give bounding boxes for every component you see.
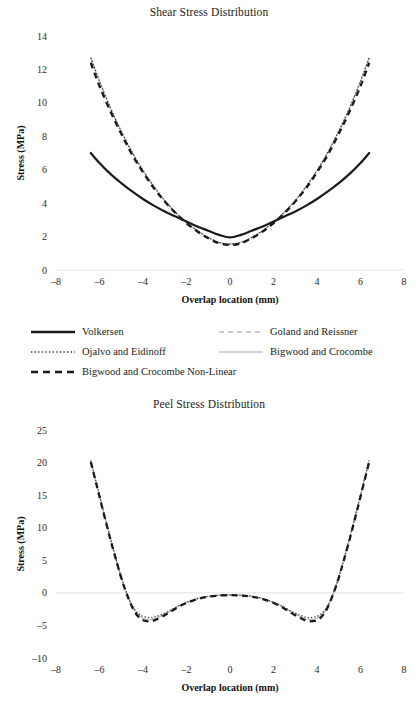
legend-swatch-thick-dashed xyxy=(30,367,76,377)
legend-item-goland-reissner: Goland and Reissner xyxy=(218,326,357,337)
x-tick-label: –8 xyxy=(50,276,61,287)
x-tick-label: –6 xyxy=(94,664,105,675)
shear-chart-title: Shear Stress Distribution xyxy=(0,0,418,22)
x-tick-label: 4 xyxy=(315,664,320,675)
legend-label-goland-reissner: Goland and Reissner xyxy=(270,326,357,337)
x-axis-title: Overlap location (mm) xyxy=(181,294,278,306)
legend-item-volkersen: Volkersen xyxy=(30,326,124,337)
y-tick-label: 0 xyxy=(42,265,47,276)
legend-label-bigwood-crocombe-nonlinear: Bigwood and Crocombe Non-Linear xyxy=(82,366,236,377)
y-axis-title: Stress (MPa) xyxy=(15,516,27,571)
y-tick-label: 12 xyxy=(37,64,47,75)
legend-label-ojalvo-eidinoff: Ojalvo and Eidinoff xyxy=(82,346,166,357)
y-tick-label: 8 xyxy=(42,131,47,142)
x-tick-label: 8 xyxy=(402,664,407,675)
shear-plot-svg: 02468101214–8–6–4–202468Stress (MPa)Over… xyxy=(0,22,418,322)
x-tick-label: –2 xyxy=(181,276,192,287)
legend-swatch-dotted xyxy=(30,347,76,357)
x-tick-label: 4 xyxy=(315,276,320,287)
series-line xyxy=(91,58,369,244)
peel-plot-svg: –10–50510152025–8–6–4–202468Stress (MPa)… xyxy=(0,414,418,706)
x-tick-label: –2 xyxy=(181,664,192,675)
x-tick-label: 2 xyxy=(271,276,276,287)
y-axis-title: Stress (MPa) xyxy=(15,125,27,180)
y-tick-label: 4 xyxy=(42,198,47,209)
x-tick-label: 6 xyxy=(358,664,363,675)
legend-label-volkersen: Volkersen xyxy=(82,326,124,337)
x-tick-label: –4 xyxy=(137,276,148,287)
y-tick-label: 2 xyxy=(42,231,47,242)
series-line xyxy=(91,58,369,244)
x-tick-label: 6 xyxy=(358,276,363,287)
x-axis-title: Overlap location (mm) xyxy=(181,682,278,694)
legend-swatch-dashed-light xyxy=(218,327,264,337)
y-tick-label: 25 xyxy=(37,425,47,436)
y-tick-label: 15 xyxy=(37,490,47,501)
series-line xyxy=(91,461,369,620)
legend-item-bigwood-crocombe-nonlinear: Bigwood and Crocombe Non-Linear xyxy=(30,366,236,377)
x-tick-label: 8 xyxy=(402,276,407,287)
y-tick-label: 5 xyxy=(42,555,47,566)
peel-chart-title: Peel Stress Distribution xyxy=(0,392,418,414)
series-line xyxy=(91,461,369,620)
legend-item-bigwood-crocombe: Bigwood and Crocombe xyxy=(218,346,373,357)
legend-swatch-solid-light xyxy=(218,347,264,357)
y-tick-label: –10 xyxy=(31,653,47,664)
series-line xyxy=(91,462,369,621)
series-line xyxy=(91,153,369,237)
y-tick-label: 6 xyxy=(42,164,47,175)
y-tick-label: 20 xyxy=(37,457,47,468)
x-tick-label: 0 xyxy=(228,664,233,675)
legend-label-bigwood-crocombe: Bigwood and Crocombe xyxy=(270,346,373,357)
x-tick-label: –8 xyxy=(50,664,61,675)
shear-stress-figure: Shear Stress Distribution 02468101214–8–… xyxy=(0,0,418,320)
y-tick-label: –5 xyxy=(36,620,47,631)
legend-item-ojalvo-eidinoff: Ojalvo and Eidinoff xyxy=(30,346,166,357)
y-tick-label: 10 xyxy=(37,97,47,108)
chart-legend: Volkersen Ojalvo and Eidinoff Bigwood an… xyxy=(0,320,418,392)
legend-swatch-solid xyxy=(30,327,76,337)
y-tick-label: 14 xyxy=(37,31,47,42)
series-line xyxy=(91,58,369,244)
shear-plot-area: 02468101214–8–6–4–202468Stress (MPa)Over… xyxy=(0,22,418,322)
y-tick-label: 10 xyxy=(37,522,47,533)
x-tick-label: 2 xyxy=(271,664,276,675)
series-line xyxy=(91,461,369,618)
x-tick-label: 0 xyxy=(228,276,233,287)
peel-stress-figure: Peel Stress Distribution –10–50510152025… xyxy=(0,392,418,706)
peel-plot-area: –10–50510152025–8–6–4–202468Stress (MPa)… xyxy=(0,414,418,706)
y-tick-label: 0 xyxy=(42,587,47,598)
x-tick-label: –4 xyxy=(137,664,148,675)
x-tick-label: –6 xyxy=(94,276,105,287)
